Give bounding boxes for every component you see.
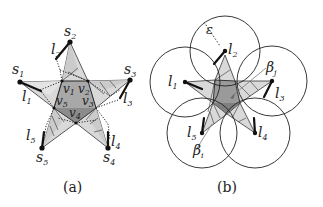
label-l4: l4 <box>111 133 121 151</box>
label-epsilon: ε <box>206 22 213 37</box>
figure: s1 s2 s3 s4 s5 l1 l2 l3 l4 l5 v1 v2 v3 v… <box>0 0 323 207</box>
label-s1: s1 <box>12 61 24 79</box>
label-l2: l2 <box>51 41 61 59</box>
panel-a: s1 s2 s3 s4 s5 l1 l2 l3 l4 l5 v1 v2 v3 v… <box>12 23 136 195</box>
label-s5: s5 <box>36 149 48 167</box>
label-b-l3: l3 <box>275 85 285 103</box>
label-l5: l5 <box>26 127 36 145</box>
label-b-l5: l5 <box>187 124 197 142</box>
label-s4: s4 <box>103 149 115 167</box>
caption-b: (b) <box>217 179 237 195</box>
label-beta-j: βj <box>265 59 277 77</box>
caption-a: (a) <box>63 179 82 195</box>
label-b-l4: l4 <box>258 124 268 142</box>
label-b-l2: l2 <box>228 41 238 59</box>
label-s2: s2 <box>64 23 76 41</box>
label-l3: l3 <box>123 90 133 108</box>
label-l1: l1 <box>22 88 32 106</box>
panel-b: ε l1 l2 l3 l4 l5 βj βi (b) <box>150 16 307 195</box>
label-s3: s3 <box>124 61 136 79</box>
label-b-l1: l1 <box>168 73 178 91</box>
label-beta-i: βi <box>192 142 204 160</box>
